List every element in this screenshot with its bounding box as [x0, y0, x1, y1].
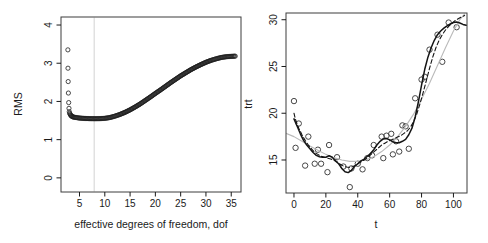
right-x-axis-title: t	[375, 218, 378, 230]
y-tick-label: 4	[43, 22, 54, 28]
y-axis: 15202530	[268, 14, 286, 166]
x-axis: 5101520253035	[77, 192, 238, 209]
data-point	[360, 167, 365, 172]
data-point	[397, 149, 402, 154]
data-point	[318, 161, 323, 166]
rms-curve-circle-band	[68, 54, 238, 121]
x-tick-label: 100	[445, 199, 462, 210]
y-axis: 01234	[43, 22, 61, 181]
data-point	[66, 66, 70, 70]
y-tick-label: 0	[43, 175, 54, 181]
data-point	[406, 146, 411, 151]
x-tick-label: 80	[416, 199, 428, 210]
scatter-points	[66, 48, 72, 114]
left-x-axis-title: effective degrees of freedom, dof	[74, 218, 227, 230]
data-point	[293, 145, 298, 150]
x-tick-label: 35	[226, 198, 238, 209]
x-tick-label: 0	[291, 199, 297, 210]
x-tick-label: 25	[175, 198, 187, 209]
right-plot-trt-vs-t: 02040608010015202530 t trt	[244, 0, 488, 243]
plot-frame	[61, 17, 241, 192]
left-plot-marks: 510152025303501234	[43, 17, 241, 209]
y-tick-label: 2	[43, 98, 54, 104]
data-point	[347, 184, 352, 189]
right-y-axis-title: trt	[244, 99, 254, 108]
x-tick-label: 20	[320, 199, 332, 210]
fit-line-thick-solid-smoother	[294, 22, 466, 173]
data-point	[412, 96, 417, 101]
data-point	[389, 131, 394, 136]
data-point	[67, 100, 71, 104]
x-tick-label: 40	[352, 199, 364, 210]
scatter-points	[291, 20, 459, 190]
data-point	[325, 169, 330, 174]
data-point	[306, 134, 311, 139]
x-tick-label: 20	[150, 198, 162, 209]
figure: 510152025303501234 effective degrees of …	[0, 0, 488, 243]
x-axis: 020406080100	[291, 193, 462, 210]
fit-line-thin-gray-smoother	[286, 14, 465, 161]
left-plot-rms-vs-dof: 510152025303501234 effective degrees of …	[0, 0, 244, 243]
data-point	[390, 152, 395, 157]
y-tick-label: 20	[268, 107, 279, 119]
x-tick-label: 10	[99, 198, 111, 209]
y-tick-label: 1	[43, 136, 54, 142]
data-point	[291, 98, 296, 103]
x-tick-label: 60	[384, 199, 396, 210]
y-tick-label: 30	[268, 14, 279, 26]
y-tick-label: 3	[43, 60, 54, 66]
data-point	[66, 79, 70, 83]
data-point	[66, 91, 70, 95]
data-point	[381, 155, 386, 160]
left-y-axis-title: RMS	[12, 92, 24, 115]
x-tick-label: 5	[77, 198, 83, 209]
data-point	[302, 163, 307, 168]
x-tick-label: 15	[125, 198, 137, 209]
fit-line-dashed-smoother	[294, 16, 465, 168]
right-plot-marks: 02040608010015202530	[268, 13, 467, 210]
data-point	[312, 161, 317, 166]
data-point	[326, 142, 331, 147]
data-point	[66, 48, 70, 52]
x-tick-label: 30	[200, 198, 212, 209]
y-tick-label: 15	[268, 154, 279, 166]
y-tick-label: 25	[268, 60, 279, 72]
